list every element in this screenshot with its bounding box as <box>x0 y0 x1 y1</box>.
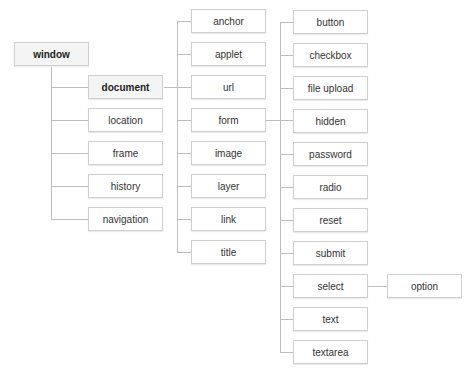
node-textarea: textarea <box>293 340 368 364</box>
connector <box>280 319 293 320</box>
connector <box>368 286 387 287</box>
connector <box>177 120 191 121</box>
connector <box>177 252 191 253</box>
connector <box>177 54 191 55</box>
node-password: password <box>293 142 368 166</box>
connector <box>280 154 293 155</box>
node-image: image <box>191 141 266 165</box>
connector <box>177 153 191 154</box>
node-link: link <box>191 207 266 231</box>
node-reset: reset <box>293 208 368 232</box>
node-history: history <box>88 174 163 198</box>
connector <box>177 186 191 187</box>
node-location: location <box>88 108 163 132</box>
node-option: option <box>387 274 462 298</box>
connector <box>51 67 52 220</box>
node-anchor: anchor <box>191 9 266 33</box>
connector <box>280 253 293 254</box>
connector <box>51 87 88 88</box>
node-button: button <box>293 10 368 34</box>
connector <box>280 187 293 188</box>
connector <box>164 87 178 88</box>
connector <box>280 55 293 56</box>
node-navigation: navigation <box>88 207 163 231</box>
node-checkbox: checkbox <box>293 43 368 67</box>
connector <box>51 120 88 121</box>
node-select: select <box>293 274 368 298</box>
node-text: text <box>293 307 368 331</box>
connector <box>51 153 88 154</box>
node-radio: radio <box>293 175 368 199</box>
node-url: url <box>191 75 266 99</box>
node-window: window <box>14 42 89 66</box>
node-layer: layer <box>191 174 266 198</box>
connector <box>280 286 293 287</box>
connector <box>177 219 191 220</box>
connector <box>280 220 293 221</box>
node-submit: submit <box>293 241 368 265</box>
node-file-upload: file upload <box>293 76 368 100</box>
connector <box>177 87 191 88</box>
connector <box>280 22 293 23</box>
node-document: document <box>88 75 163 99</box>
connector <box>177 21 191 22</box>
node-applet: applet <box>191 42 266 66</box>
node-hidden: hidden <box>293 109 368 133</box>
connector <box>280 88 293 89</box>
node-frame: frame <box>88 141 163 165</box>
connector <box>280 352 293 353</box>
dom-tree-diagram: window document location frame history n… <box>0 0 474 378</box>
connector <box>51 219 88 220</box>
node-title: title <box>191 240 266 264</box>
node-form: form <box>191 108 266 132</box>
connector <box>51 186 88 187</box>
